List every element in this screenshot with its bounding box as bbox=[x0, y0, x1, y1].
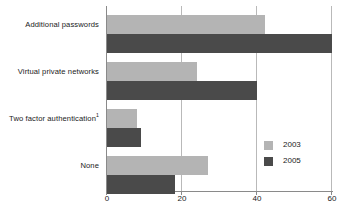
bar-none-2003 bbox=[107, 156, 208, 175]
category-label-text: None bbox=[80, 161, 99, 170]
legend-item-2003: 2003 bbox=[264, 137, 326, 153]
legend-swatch-icon-2003 bbox=[264, 141, 273, 150]
x-tick-label-20: 20 bbox=[178, 194, 187, 204]
legend-label-2005: 2005 bbox=[283, 156, 301, 166]
bar-two-factor-authentication-2003 bbox=[107, 109, 137, 128]
bar-virtual-private-networks-2005 bbox=[107, 81, 257, 100]
category-label-none: None bbox=[0, 161, 99, 170]
category-label-text: Additional passwords bbox=[25, 20, 99, 29]
bar-none-2005 bbox=[107, 175, 175, 194]
chart-legend: 2003 2005 bbox=[264, 137, 326, 169]
bar-virtual-private-networks-2003 bbox=[107, 62, 197, 81]
legend-item-2005: 2005 bbox=[264, 153, 326, 169]
bar-two-factor-authentication-2005 bbox=[107, 128, 141, 147]
category-label-additional-passwords: Additional passwords bbox=[0, 20, 99, 29]
category-label-two-factor-authentication: Two factor authentication1 bbox=[0, 114, 99, 123]
legend-label-2003: 2003 bbox=[283, 140, 301, 150]
x-tick-label-40: 40 bbox=[253, 194, 262, 204]
bar-additional-passwords-2003 bbox=[107, 15, 265, 34]
category-label-text: Two factor authentication bbox=[9, 114, 96, 123]
x-tick-label-0: 0 bbox=[105, 194, 109, 204]
legend-swatch-icon-2005 bbox=[264, 157, 273, 166]
bar-chart: Additional passwords Virtual private net… bbox=[0, 0, 345, 221]
category-axis-labels: Additional passwords Virtual private net… bbox=[0, 6, 103, 191]
category-label-text: Virtual private networks bbox=[18, 67, 99, 76]
x-tick-label-60: 60 bbox=[328, 194, 337, 204]
x-axis-tick-labels: 0 20 40 60 bbox=[106, 194, 345, 208]
bar-additional-passwords-2005 bbox=[107, 34, 332, 53]
category-label-virtual-private-networks: Virtual private networks bbox=[0, 67, 99, 76]
category-footnote-marker: 1 bbox=[96, 112, 99, 118]
